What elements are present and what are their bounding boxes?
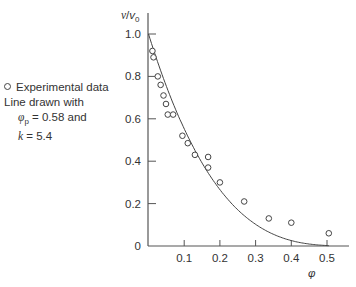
data-point [217, 180, 223, 186]
data-point [241, 199, 247, 205]
legend-annotation-phi: φp = 0.58 and [4, 110, 109, 129]
data-point [170, 112, 176, 118]
legend-label: Experimental data [16, 81, 109, 93]
x-tick-label: 0.2 [212, 252, 228, 264]
data-point [150, 48, 156, 54]
k-value: = 5.4 [23, 130, 52, 142]
axes: 00.20.40.60.81.0 0.10.20.30.40.5 [125, 13, 349, 264]
data-point [161, 93, 167, 99]
data-point [205, 154, 211, 160]
fit-line [149, 34, 329, 246]
open-circle-marker-icon [4, 83, 11, 90]
x-axis-label: φ [308, 267, 316, 279]
x-tick-label: 0.3 [248, 252, 264, 264]
legend: Experimental data Line drawn with φp = 0… [4, 80, 109, 144]
y-tick-label: 0.8 [125, 70, 141, 82]
y-axis-label: v/v0 [121, 9, 140, 24]
phi-value: = 0.58 and [29, 111, 87, 123]
data-point [192, 152, 198, 158]
y-ticks: 00.20.40.60.81.0 [125, 28, 156, 252]
legend-annotation-line1: Line drawn with [4, 95, 109, 110]
x-tick-label: 0.5 [319, 252, 335, 264]
data-point [151, 55, 157, 61]
y-tick-label: 0.6 [125, 113, 141, 125]
data-point [185, 140, 191, 146]
data-point [266, 216, 272, 222]
legend-entry-experimental: Experimental data [4, 80, 109, 95]
y-tick-label: 1.0 [125, 28, 141, 40]
y-tick-label: 0.2 [125, 198, 141, 210]
x-ticks: 0.10.20.30.40.5 [176, 240, 335, 264]
data-point [155, 74, 161, 80]
x-tick-label: 0.4 [283, 252, 300, 264]
data-point [205, 165, 211, 171]
data-point [180, 133, 186, 139]
data-points [150, 48, 332, 236]
y-tick-label: 0.4 [125, 155, 142, 167]
data-point [158, 82, 164, 88]
y-tick-label: 0 [135, 240, 141, 252]
x-tick-label: 0.1 [176, 252, 192, 264]
data-point [289, 220, 295, 226]
legend-annotation-k: k = 5.4 [4, 129, 109, 144]
data-point [326, 230, 332, 236]
data-point [163, 101, 169, 107]
data-point [165, 112, 171, 118]
